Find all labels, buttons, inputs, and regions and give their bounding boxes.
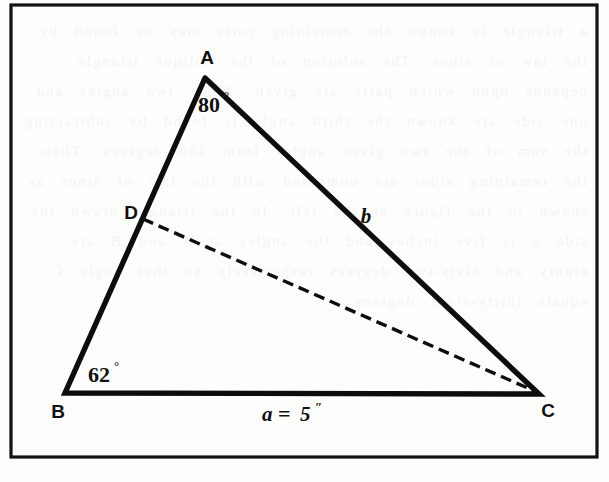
angle-value-at-a: 80 (198, 92, 220, 117)
vertex-label-c: C (541, 400, 555, 421)
angle-value-at-b: 62 (88, 362, 110, 387)
vertex-label-d: D (124, 202, 138, 223)
figure-border (11, 5, 597, 457)
triangle-outline (65, 78, 539, 394)
side-label-b: b (361, 204, 372, 228)
vertex-label-a: A (200, 47, 214, 68)
angle-degree-symbol-at-a: ° (224, 88, 229, 103)
figure-canvas: A B C D 80 ° 62 ° b a = 5 ″ (0, 0, 609, 482)
cevian-dc-dashed-line (143, 219, 539, 393)
angle-degree-symbol-at-b: ° (114, 358, 119, 373)
triangle-figure: a triangle is known the remaining parts … (0, 0, 609, 482)
side-label-a-variable: a (262, 402, 273, 426)
side-label-a-equals: = (278, 401, 291, 426)
vertex-label-b: B (51, 401, 65, 422)
side-label-a-unit-inches: ″ (315, 399, 322, 414)
side-label-a-value: 5 (300, 402, 311, 426)
